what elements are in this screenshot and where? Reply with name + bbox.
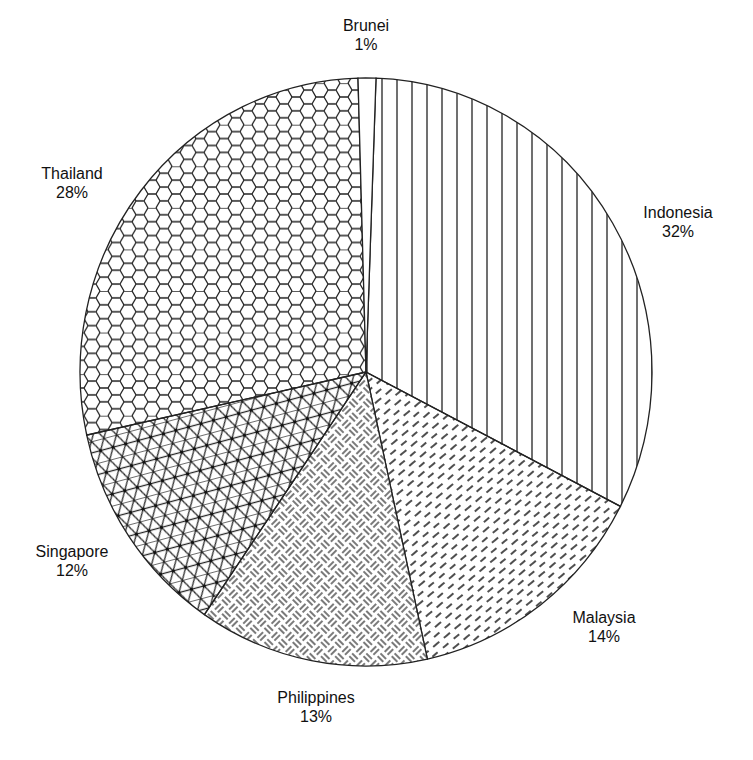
label-malaysia-name: Malaysia: [572, 608, 635, 627]
label-thailand-pct: 28%: [41, 183, 102, 202]
label-brunei-pct: 1%: [343, 35, 389, 54]
label-singapore: Singapore 12%: [36, 542, 109, 580]
label-philippines-pct: 13%: [277, 707, 354, 726]
label-malaysia: Malaysia 14%: [572, 608, 635, 646]
label-singapore-name: Singapore: [36, 542, 109, 561]
label-singapore-pct: 12%: [36, 561, 109, 580]
label-malaysia-pct: 14%: [572, 627, 635, 646]
slice-thailand: [80, 78, 366, 435]
label-brunei: Brunei 1%: [343, 16, 389, 54]
label-indonesia-name: Indonesia: [643, 203, 712, 222]
label-indonesia-pct: 32%: [643, 222, 712, 241]
label-indonesia: Indonesia 32%: [643, 203, 712, 241]
label-brunei-name: Brunei: [343, 16, 389, 35]
label-philippines-name: Philippines: [277, 688, 354, 707]
pie-chart: [0, 0, 753, 760]
label-thailand-name: Thailand: [41, 164, 102, 183]
label-thailand: Thailand 28%: [41, 164, 102, 202]
label-philippines: Philippines 13%: [277, 688, 354, 726]
